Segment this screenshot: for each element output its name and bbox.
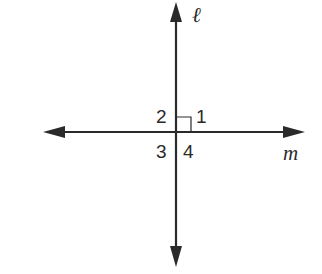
arrowhead-left-icon (43, 126, 65, 138)
perpendicular-lines-diagram: ℓ m 2 1 3 4 (0, 0, 322, 274)
line-l-label: ℓ (192, 3, 201, 27)
arrowhead-up-icon (170, 2, 182, 22)
line-l (170, 2, 182, 267)
line-m-label: m (283, 141, 298, 165)
arrowhead-down-icon (170, 246, 182, 267)
angle-label-1: 1 (196, 106, 207, 127)
angle-label-2: 2 (156, 106, 167, 127)
line-m (43, 126, 305, 138)
angle-label-4: 4 (183, 141, 194, 162)
angle-label-3: 3 (156, 141, 167, 162)
right-angle-marker (176, 117, 191, 132)
arrowhead-right-icon (283, 126, 305, 138)
